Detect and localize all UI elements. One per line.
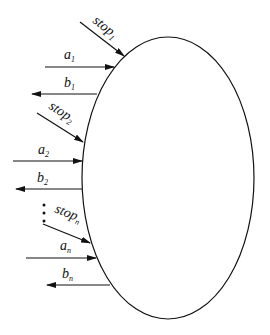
svg-text:a2: a2 bbox=[38, 142, 49, 159]
svg-text:stop2: stop2 bbox=[45, 98, 77, 127]
signal-a2: a2 bbox=[13, 142, 82, 161]
svg-text:b2: b2 bbox=[37, 170, 48, 187]
svg-text:bn: bn bbox=[62, 266, 73, 283]
process-ellipse bbox=[82, 37, 254, 319]
svg-text:stopn: stopn bbox=[52, 201, 84, 227]
svg-text:an: an bbox=[60, 238, 71, 255]
signal-stopn: stopn bbox=[43, 201, 90, 243]
signal-stop1: stop1 bbox=[80, 13, 124, 56]
signal-b2: b2 bbox=[16, 170, 82, 189]
signal-a1: a1 bbox=[45, 47, 114, 67]
ellipsis-dots bbox=[43, 204, 46, 223]
svg-text:b1: b1 bbox=[64, 75, 75, 92]
signal-b1: b1 bbox=[32, 75, 97, 94]
signal-bn: bn bbox=[47, 266, 110, 285]
signal-stop2: stop2 bbox=[37, 98, 83, 142]
diagram-canvas: stop1 a1 b1 stop2 a2 b2 stopn an bbox=[0, 0, 270, 335]
svg-text:a1: a1 bbox=[64, 47, 75, 64]
svg-text:stop1: stop1 bbox=[89, 13, 121, 43]
